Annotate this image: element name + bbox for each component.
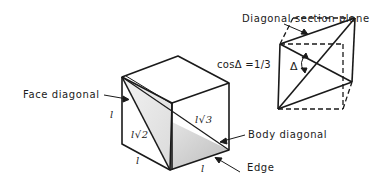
cos-delta-formula: cosΔ =1/3 bbox=[217, 60, 271, 70]
diagonal-section-plane-label: Diagonal section plane bbox=[242, 14, 370, 24]
face-diagonal-length: l√2 bbox=[131, 130, 149, 140]
body-diagonal-label: Body diagonal bbox=[248, 130, 327, 140]
edge-length-bottom-left: l bbox=[136, 156, 140, 166]
edge-label: Edge bbox=[247, 163, 275, 173]
edge-length-left: l bbox=[110, 110, 114, 120]
edge-length-bottom-right: l bbox=[201, 164, 205, 174]
face-diagonal-label: Face diagonal bbox=[23, 90, 100, 100]
body-diagonal-length: l√3 bbox=[195, 115, 213, 125]
delta-symbol: Δ bbox=[290, 61, 298, 72]
main-cube bbox=[122, 56, 229, 170]
